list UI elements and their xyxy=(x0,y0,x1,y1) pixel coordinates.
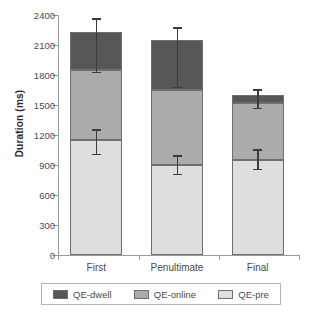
chart-figure: Duration (ms) 03006009001200150018002100… xyxy=(0,0,318,316)
error-bar xyxy=(253,149,262,170)
legend-swatch-icon xyxy=(53,290,68,299)
legend-label: QE-dwell xyxy=(73,289,112,300)
bar-segment-qe-pre[interactable] xyxy=(232,160,284,255)
legend-label: QE-pre xyxy=(238,289,269,300)
error-bar xyxy=(173,155,182,175)
legend-item[interactable]: QE-online xyxy=(134,289,196,300)
plot-area: 030060090012001500180021002400 FirstPenu… xyxy=(58,15,300,255)
error-bar-cap-bottom xyxy=(92,154,101,156)
bar-segment-qe-pre[interactable] xyxy=(151,165,203,255)
legend-label: QE-online xyxy=(154,289,196,300)
error-bar-cap-top xyxy=(173,155,182,157)
y-tick: 1200 xyxy=(58,135,64,136)
y-tick-label: 0 xyxy=(50,250,55,261)
error-bar xyxy=(92,18,101,73)
bar-segment-qe-online[interactable] xyxy=(151,90,203,165)
y-tick: 600 xyxy=(58,195,64,196)
y-tick-label: 2100 xyxy=(34,40,55,51)
error-bar-cap-top xyxy=(92,18,101,20)
chart-legend: QE-dwellQE-onlineQE-pre xyxy=(41,283,281,305)
x-tick-mark xyxy=(299,255,300,260)
x-axis-line xyxy=(58,255,300,256)
error-bar-cap-top xyxy=(253,149,262,151)
error-bar-cap-top xyxy=(92,129,101,131)
y-axis-title: Duration (ms) xyxy=(14,69,25,179)
y-tick: 1500 xyxy=(58,105,64,106)
error-bar-stem xyxy=(257,149,259,170)
y-tick: 1800 xyxy=(58,75,64,76)
x-axis-category-label: Final xyxy=(247,262,269,273)
error-bar-cap-bottom xyxy=(253,169,262,171)
error-bar-stem xyxy=(177,155,179,175)
y-tick: 2400 xyxy=(58,15,64,16)
y-tick-label: 2400 xyxy=(34,10,55,21)
y-tick-label: 1500 xyxy=(34,100,55,111)
x-tick-mark xyxy=(139,255,140,260)
error-bar-cap-top xyxy=(253,89,262,91)
y-tick: 300 xyxy=(58,225,64,226)
y-tick: 900 xyxy=(58,165,64,166)
bar-stack[interactable] xyxy=(232,15,284,255)
y-tick-label: 900 xyxy=(39,160,55,171)
error-bar-stem xyxy=(96,129,98,155)
legend-item[interactable]: QE-pre xyxy=(218,289,269,300)
y-tick-label: 600 xyxy=(39,190,55,201)
x-axis-category-label: Penultimate xyxy=(151,262,204,273)
error-bar xyxy=(173,27,182,88)
y-tick-label: 300 xyxy=(39,220,55,231)
error-bar-stem xyxy=(257,89,259,109)
error-bar-cap-bottom xyxy=(92,72,101,74)
error-bar-cap-bottom xyxy=(173,87,182,89)
y-tick-label: 1200 xyxy=(34,130,55,141)
error-bar-stem xyxy=(96,18,98,73)
x-tick-mark xyxy=(58,255,59,260)
x-axis-category-label: First xyxy=(87,262,106,273)
error-bar-cap-bottom xyxy=(253,108,262,110)
y-tick-label: 1800 xyxy=(34,70,55,81)
error-bar-stem xyxy=(177,27,179,88)
bar-segment-qe-pre[interactable] xyxy=(70,140,122,255)
error-bar xyxy=(92,129,101,155)
error-bar-cap-top xyxy=(173,27,182,29)
error-bar xyxy=(253,89,262,109)
x-tick-mark xyxy=(219,255,220,260)
legend-swatch-icon xyxy=(218,290,233,299)
legend-item[interactable]: QE-dwell xyxy=(53,289,112,300)
error-bar-cap-bottom xyxy=(173,174,182,176)
y-tick: 2100 xyxy=(58,45,64,46)
legend-swatch-icon xyxy=(134,290,149,299)
